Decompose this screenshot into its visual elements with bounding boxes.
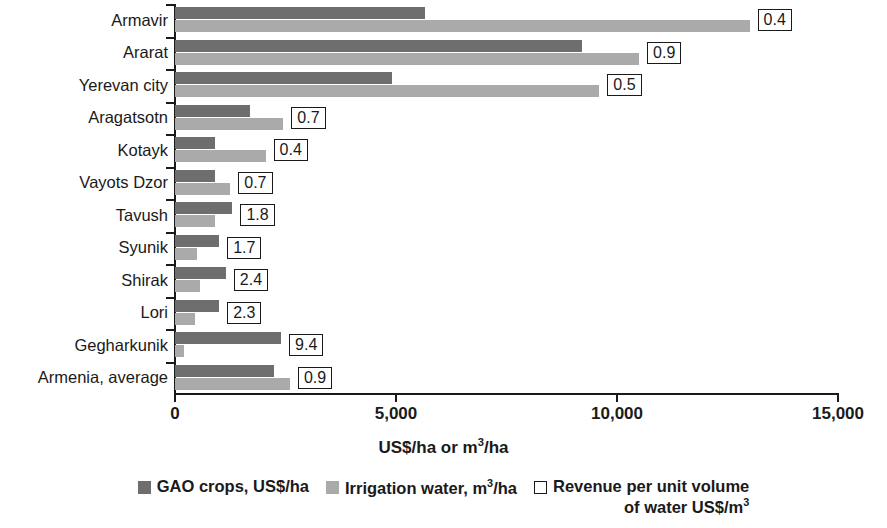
y-axis-tick [166, 167, 175, 169]
y-axis-tick [166, 37, 175, 39]
revenue-value-box: 0.7 [291, 107, 325, 129]
y-axis-tick [166, 232, 175, 234]
bar-gao-crops [175, 332, 281, 344]
chart-row: 0.4 [175, 4, 838, 37]
chart-row: 9.4 [175, 329, 838, 362]
x-axis-tick [616, 393, 618, 402]
category-label: Syunik [0, 232, 168, 265]
category-label: Vayots Dzor [0, 167, 168, 200]
chart-row: 2.4 [175, 264, 838, 297]
x-axis-tick-label: 0 [170, 404, 179, 424]
bar-irrigation-water [175, 118, 283, 130]
revenue-value-box: 0.4 [274, 139, 308, 161]
y-axis-tick [166, 362, 175, 364]
bar-gao-crops [175, 72, 392, 84]
legend-label-gao-crops: GAO crops, US$/ha [157, 477, 309, 496]
bar-gao-crops [175, 267, 226, 279]
category-axis-labels: ArmavirAraratYerevan cityAragatsotnKotay… [0, 4, 168, 394]
y-axis-tick [166, 102, 175, 104]
category-label: Armenia, average [0, 362, 168, 395]
chart-row: 0.5 [175, 69, 838, 102]
x-axis-title: US$/ha or m3/ha [0, 436, 887, 458]
bar-irrigation-water [175, 215, 215, 227]
bar-irrigation-water [175, 20, 750, 32]
bar-irrigation-water [175, 345, 184, 357]
legend-item-gao-crops: GAO crops, US$/ha [138, 477, 309, 496]
category-label: Gegharkunik [0, 329, 168, 362]
legend-swatch-open-box-icon [534, 481, 547, 494]
x-axis-tick [174, 393, 176, 402]
revenue-value-box: 1.8 [240, 204, 274, 226]
legend-swatch-dark-icon [138, 481, 151, 494]
y-axis-tick [166, 199, 175, 201]
bar-irrigation-water [175, 183, 230, 195]
revenue-value-box: 0.7 [238, 172, 272, 194]
bar-irrigation-water [175, 280, 200, 292]
legend-label-irrigation-suffix: /ha [493, 479, 517, 497]
revenue-value-box: 1.7 [227, 237, 261, 259]
revenue-value-box: 2.4 [234, 269, 268, 291]
bar-gao-crops [175, 170, 215, 182]
chart-row: 2.3 [175, 297, 838, 330]
legend-swatch-light-icon [326, 481, 339, 494]
chart-row: 0.7 [175, 167, 838, 200]
legend-label-revenue-line1: Revenue per unit volume [553, 477, 749, 496]
category-label: Yerevan city [0, 69, 168, 102]
bar-gao-crops [175, 235, 219, 247]
category-label: Shirak [0, 264, 168, 297]
revenue-value-box: 0.9 [298, 367, 332, 389]
bar-gao-crops [175, 40, 582, 52]
bar-gao-crops [175, 105, 250, 117]
bar-gao-crops [175, 7, 425, 19]
revenue-value-box: 0.4 [758, 9, 792, 31]
y-axis-tick [166, 297, 175, 299]
bar-irrigation-water [175, 313, 195, 325]
chart-row: 0.4 [175, 134, 838, 167]
y-axis-tick [166, 329, 175, 331]
y-axis-tick [166, 69, 175, 71]
y-axis-tick [166, 264, 175, 266]
bar-gao-crops [175, 300, 219, 312]
category-label: Armavir [0, 4, 168, 37]
legend-label-revenue-line2: of water US$/m3 [553, 496, 749, 517]
x-axis-title-suffix: /ha [484, 438, 509, 457]
chart-row: 0.7 [175, 102, 838, 135]
bar-irrigation-water [175, 378, 290, 390]
bar-gao-crops [175, 365, 274, 377]
chart-row: 1.7 [175, 232, 838, 265]
chart-legend: GAO crops, US$/ha Irrigation water, m3/h… [0, 477, 887, 517]
category-label: Ararat [0, 37, 168, 70]
bar-irrigation-water [175, 85, 599, 97]
bar-irrigation-water [175, 150, 266, 162]
y-axis-tick [166, 4, 175, 6]
x-axis-tick-label: 15,000 [812, 404, 864, 424]
chart-row: 0.9 [175, 37, 838, 70]
revenue-value-box: 0.5 [607, 74, 641, 96]
legend-label-irrigation-prefix: Irrigation water, m [345, 479, 487, 497]
x-axis-tick [837, 393, 839, 402]
bar-irrigation-water [175, 248, 197, 260]
x-axis-title-prefix: US$/ha or m [378, 438, 477, 457]
legend-item-irrigation-water: Irrigation water, m3/ha [326, 477, 517, 498]
revenue-value-box: 9.4 [289, 334, 323, 356]
revenue-value-box: 0.9 [647, 42, 681, 64]
plot-area: 0.40.90.50.70.40.71.81.72.42.39.40.9 [175, 4, 838, 394]
x-axis-tick-label: 10,000 [591, 404, 643, 424]
bar-gao-crops [175, 202, 232, 214]
legend-label-revenue-line2-prefix: of water US$/m [624, 498, 743, 516]
legend-label-revenue-wrap: Revenue per unit volume of water US$/m3 [553, 477, 749, 517]
category-label: Tavush [0, 199, 168, 232]
bar-gao-crops [175, 137, 215, 149]
category-label: Lori [0, 297, 168, 330]
chart-row: 1.8 [175, 199, 838, 232]
x-axis-tick [395, 393, 397, 402]
bar-irrigation-water [175, 53, 639, 65]
chart-row: 0.9 [175, 362, 838, 395]
category-label: Kotayk [0, 134, 168, 167]
bar-chart: ArmavirAraratYerevan cityAragatsotnKotay… [0, 0, 887, 528]
revenue-value-box: 2.3 [227, 302, 261, 324]
category-label: Aragatsotn [0, 102, 168, 135]
legend-label-irrigation-water: Irrigation water, m3/ha [345, 477, 517, 498]
x-axis-tick-label: 5,000 [375, 404, 418, 424]
y-axis-tick [166, 134, 175, 136]
